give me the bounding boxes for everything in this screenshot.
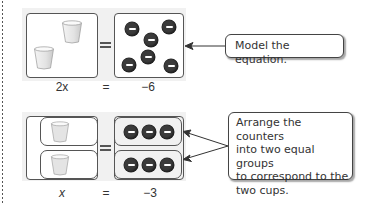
callout-arrows	[0, 0, 369, 205]
